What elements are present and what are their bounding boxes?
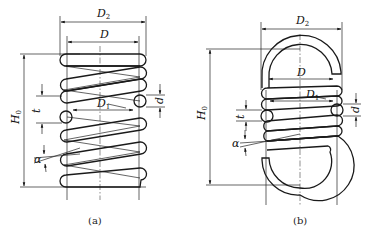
figure-b-extension-spring: D2 D D1 H0 t d α (b) — [195, 14, 362, 226]
label-d-wire-b: d — [349, 106, 362, 113]
angle-alpha-b — [240, 130, 300, 156]
dimension-d2-b — [261, 22, 342, 90]
label-alpha-b: α — [232, 137, 240, 150]
caption-a: (a) — [88, 215, 102, 226]
label-h0-b: H0 — [195, 106, 209, 121]
spring-coils-b — [262, 86, 343, 205]
spring-diagram: D2 D D1 H0 t d α (a) — [0, 0, 372, 238]
figure-a-compression-spring: D2 D D1 H0 t d α (a) — [9, 7, 166, 226]
spring-coils-a — [60, 54, 147, 187]
dimension-h0-b — [206, 49, 300, 185]
label-t-a: t — [30, 108, 43, 113]
label-d-wire-a: d — [153, 97, 166, 104]
label-d-a: D — [99, 28, 109, 41]
label-d1-a: D1 — [96, 97, 110, 111]
label-d2-b: D2 — [295, 14, 309, 28]
label-d2-a: D2 — [96, 7, 110, 21]
label-alpha-a: α — [34, 153, 42, 166]
label-d1-b: D1 — [305, 88, 319, 102]
caption-b: (b) — [293, 215, 307, 226]
label-h0-a: H0 — [9, 110, 23, 125]
bottom-hook-b — [262, 136, 354, 201]
label-t-b: t — [234, 114, 247, 119]
label-d-b: D — [296, 66, 306, 79]
top-hook-b — [262, 35, 341, 88]
